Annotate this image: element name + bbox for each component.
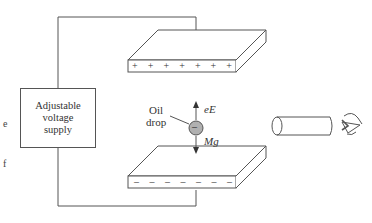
top-plate-charges: + + + + + + +	[132, 61, 232, 71]
plus-sign: +	[211, 61, 217, 71]
minus-sign: –	[196, 177, 201, 187]
edge-fragment-f: f	[3, 158, 6, 169]
minus-sign: –	[134, 177, 139, 187]
minus-sign: –	[181, 177, 186, 187]
eye-icon	[342, 113, 362, 134]
adjustable-voltage-supply: Adjustable voltage supply	[20, 88, 96, 148]
oil-drop-label-line1: Oil	[146, 104, 166, 116]
edge-fragment-e: e	[3, 118, 7, 129]
drop-leader-line	[170, 116, 189, 124]
minus-sign: –	[227, 177, 232, 187]
supply-label-line2: voltage	[43, 112, 74, 124]
plus-sign: +	[132, 61, 138, 71]
supply-label-line3: supply	[44, 124, 72, 136]
plus-sign: +	[226, 61, 232, 71]
minus-sign: –	[212, 177, 217, 187]
oil-drop-diagram: + + + + + + + – – – – – – – Adjustable v…	[0, 0, 372, 223]
oil-drop-label: Oil drop	[146, 104, 166, 128]
plus-sign: +	[195, 61, 201, 71]
bottom-plate-charges: – – – – – – –	[134, 177, 232, 187]
minus-sign: –	[150, 177, 155, 187]
supply-label-line1: Adjustable	[35, 100, 81, 112]
force-label-eE: eE	[204, 104, 216, 115]
force-label-Mg: Mg	[204, 136, 219, 147]
drop-charge: –	[192, 122, 197, 132]
telescope-tube	[272, 117, 332, 135]
plus-sign: +	[179, 61, 185, 71]
plus-sign: +	[163, 61, 169, 71]
plus-sign: +	[148, 61, 154, 71]
minus-sign: –	[165, 177, 170, 187]
oil-drop-label-line2: drop	[146, 116, 166, 128]
